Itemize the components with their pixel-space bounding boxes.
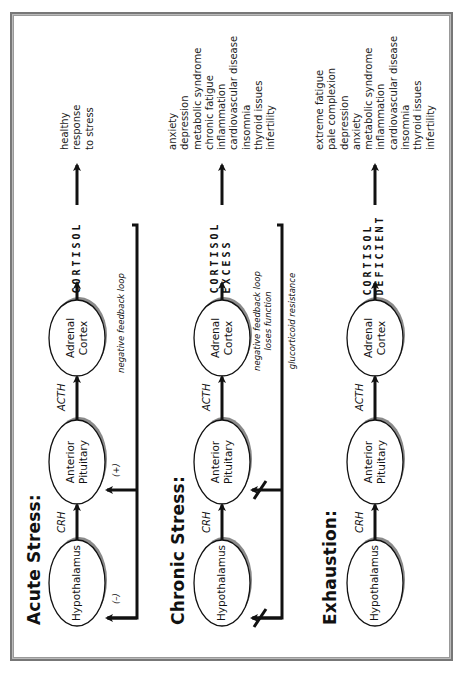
effect-item: anxiety [167, 36, 179, 150]
adrenal-label-line-1: Adrenal [209, 300, 222, 376]
effect-item: inflammation [216, 36, 228, 150]
letter: I [362, 252, 374, 261]
letter: S [221, 250, 233, 259]
deficient-line: DEFICIENT [374, 216, 386, 297]
pituitary-label: Anterior Pituitary [362, 420, 388, 504]
excess-cortisol-label: CORTISOL EXCESS [209, 223, 233, 295]
rotated-diagram-canvas: Acute Stress: Hypothalamus Anterior Pitu… [0, 0, 455, 673]
letter: X [221, 277, 233, 286]
effects-list-acute: healthy response to stress [59, 105, 96, 150]
cortisol-line: CORTISOL [362, 216, 374, 297]
effect-item: depression [179, 36, 191, 150]
letter: R [209, 268, 221, 277]
letter: S [362, 243, 374, 252]
letter: I [374, 243, 386, 252]
letter: C [221, 268, 233, 277]
feedback-note-line-1: negative feedback loop [252, 259, 263, 383]
effect-item: extreme fatigue [314, 36, 326, 150]
letter: O [362, 234, 374, 243]
feedback-note-line-2: loses function [263, 259, 274, 383]
effect-item: infertility [425, 36, 437, 150]
adrenal-label-line-2: Cortex [375, 300, 388, 376]
effect-item: cardiovascular disease [228, 36, 240, 150]
adrenal-label-line-1: Adrenal [362, 300, 375, 376]
letter: O [71, 277, 83, 286]
letter: T [362, 261, 374, 270]
hypothalamus-label: Hypothalamus [215, 540, 228, 626]
effect-item: metabolic syndrome [363, 36, 375, 150]
letter: T [209, 259, 221, 268]
letter: L [209, 223, 221, 232]
effect-item: insomnia [400, 36, 412, 150]
row-title-acute: Acute Stress: [24, 494, 44, 625]
glucocorticoid-resistance-note: glucorticoid resistance [287, 259, 298, 383]
effects-list-chronic: anxiety depression metabolic syndrome ch… [167, 36, 278, 150]
acth-label: ACTH [354, 384, 365, 411]
letter: E [374, 234, 386, 243]
letter: I [209, 250, 221, 259]
adrenal-label: Adrenal Cortex [64, 300, 90, 376]
effect-item: infertility [265, 36, 277, 150]
effect-item: cardiovascular disease [388, 36, 400, 150]
hypothalamus-label: Hypothalamus [70, 540, 83, 626]
cortisol-line: CORTISOL [209, 223, 221, 295]
effects-list-exhaustion: extreme fatigue pale complexion depressi… [314, 36, 437, 150]
feedback-loop-note: negative feedback loop [116, 263, 127, 383]
adrenal-label: Adrenal Cortex [209, 300, 235, 376]
letter: S [221, 241, 233, 250]
letter: R [71, 268, 83, 277]
pituitary-label-line-2: Pituitary [77, 420, 90, 504]
letter: S [209, 241, 221, 250]
adrenal-label-line-1: Adrenal [64, 300, 77, 376]
deficient-cortisol-label: CORTISOL DEFICIENT [362, 216, 386, 297]
effect-item: chronic fatigue [204, 36, 216, 150]
row-title-chronic: Chronic Stress: [168, 476, 188, 625]
letter: O [362, 279, 374, 288]
letter: N [374, 225, 386, 234]
crh-label: CRH [56, 512, 67, 533]
letter: L [362, 225, 374, 234]
pituitary-label-line-1: Anterior [64, 420, 77, 504]
effect-item: healthy [59, 105, 71, 150]
letter: T [71, 259, 83, 268]
letter: C [362, 288, 374, 297]
effect-item: response [71, 105, 83, 150]
letter: O [209, 232, 221, 241]
pituitary-label-line-1: Anterior [209, 420, 222, 504]
effect-item: inflammation [375, 36, 387, 150]
effect-item: thyroid issues [412, 36, 424, 150]
feedback-loop-note: negative feedback loop loses function [252, 259, 274, 383]
effect-item: insomnia [241, 36, 253, 150]
adrenal-label-line-2: Cortex [222, 300, 235, 376]
excess-line: EXCESS [221, 223, 233, 295]
feedback-mark-positive: (+) [111, 463, 122, 477]
effect-item: pale complexion [326, 36, 338, 150]
letter: C [374, 252, 386, 261]
letter: E [221, 286, 233, 295]
letter: R [362, 270, 374, 279]
effect-item: to stress [84, 105, 96, 150]
crh-label: CRH [201, 512, 212, 533]
letter: L [71, 223, 83, 232]
letter: T [374, 216, 386, 225]
letter: I [71, 250, 83, 259]
hypothalamus-label: Hypothalamus [368, 540, 381, 626]
adrenal-label: Adrenal Cortex [362, 300, 388, 376]
letter: D [374, 288, 386, 297]
pituitary-label-line-1: Anterior [362, 420, 375, 504]
letter: S [71, 241, 83, 250]
letter: C [209, 286, 221, 295]
cortisol-label: CORTISOL [71, 223, 83, 295]
letter: O [209, 277, 221, 286]
letter: F [374, 270, 386, 279]
letter: E [374, 279, 386, 288]
pituitary-label-line-2: Pituitary [222, 420, 235, 504]
adrenal-label-line-2: Cortex [77, 300, 90, 376]
row-title-exhaustion: Exhaustion: [320, 510, 340, 625]
effect-item: anxiety [351, 36, 363, 150]
pituitary-label: Anterior Pituitary [64, 420, 90, 504]
pituitary-label: Anterior Pituitary [209, 420, 235, 504]
feedback-mark-negative: (–) [111, 593, 122, 604]
acth-label: ACTH [56, 384, 67, 411]
letter: E [221, 259, 233, 268]
